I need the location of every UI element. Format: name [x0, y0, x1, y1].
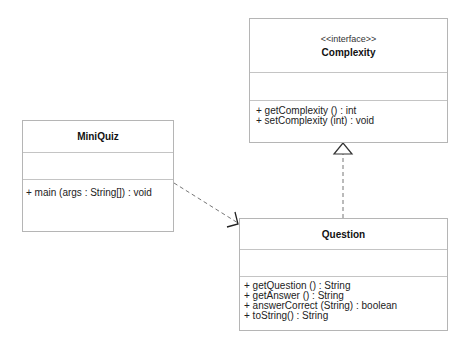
class-header: Question: [240, 219, 447, 249]
operations-section: + getQuestion () : String + getAnswer ()…: [240, 276, 447, 330]
class-box-question[interactable]: Question + getQuestion () : String + get…: [239, 218, 448, 331]
dependency-arrowhead-icon: [227, 212, 238, 227]
operations-list: + main (args : String[]) : void: [26, 188, 152, 198]
operations-list: + getComplexity () : int + setComplexity…: [256, 106, 374, 126]
class-box-complexity[interactable]: <<interface>> Complexity + getComplexity…: [249, 18, 448, 143]
operation: + main (args : String[]) : void: [26, 188, 152, 198]
operations-section: + main (args : String[]) : void: [23, 179, 173, 231]
class-name: MiniQuiz: [23, 131, 173, 142]
attributes-section: [250, 72, 447, 100]
class-header: <<interface>> Complexity: [250, 19, 447, 72]
realization-triangle-icon: [334, 143, 352, 154]
operations-section: + getComplexity () : int + setComplexity…: [250, 100, 447, 142]
class-box-miniquiz[interactable]: MiniQuiz + main (args : String[]) : void: [22, 120, 174, 232]
dependency-line: [174, 183, 238, 223]
attributes-section: [23, 152, 173, 179]
stereotype-label: <<interface>>: [250, 34, 447, 44]
class-name: Complexity: [250, 47, 447, 58]
class-name: Question: [240, 229, 447, 240]
attributes-section: [240, 249, 447, 276]
operations-list: + getQuestion () : String + getAnswer ()…: [244, 281, 397, 321]
operation: + toString() : String: [244, 311, 397, 321]
operation: + setComplexity (int) : void: [256, 116, 374, 126]
class-header: MiniQuiz: [23, 121, 173, 152]
